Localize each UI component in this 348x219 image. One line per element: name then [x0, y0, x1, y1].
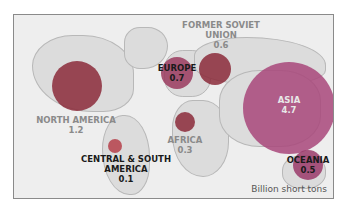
label-asia-value: 4.7 [269, 105, 309, 115]
label-fsu-name-line2: UNION [176, 30, 266, 40]
label-asia-name: ASIA [269, 95, 309, 105]
label-africa-name: AFRICA [165, 135, 205, 145]
label-europe: EUROPE 0.7 [157, 63, 197, 83]
bubble-former-soviet-union [199, 53, 231, 85]
label-asia: ASIA 4.7 [269, 95, 309, 115]
label-oceania: OCEANIA 0.5 [286, 155, 330, 175]
bubble-africa [175, 112, 195, 132]
label-africa: AFRICA 0.3 [165, 135, 205, 155]
bubble-north-america [52, 61, 102, 111]
label-former-soviet-union: FORMER SOVIET UNION 0.6 [176, 20, 266, 50]
bubble-central-south-america [108, 139, 122, 153]
label-csa-name-line2: AMERICA [76, 164, 176, 174]
unit-label: Billion short tons [251, 184, 327, 194]
map-frame: NORTH AMERICA 1.2 CENTRAL & SOUTH AMERIC… [13, 14, 334, 199]
label-europe-value: 0.7 [157, 73, 197, 83]
label-north-america-name: NORTH AMERICA [36, 115, 116, 125]
label-fsu-name-line1: FORMER SOVIET [176, 20, 266, 30]
label-central-south-america: CENTRAL & SOUTH AMERICA 0.1 [76, 154, 176, 184]
label-north-america: NORTH AMERICA 1.2 [36, 115, 116, 135]
label-oceania-name: OCEANIA [286, 155, 330, 165]
label-csa-name-line1: CENTRAL & SOUTH [76, 154, 176, 164]
label-csa-value: 0.1 [76, 174, 176, 184]
label-fsu-value: 0.6 [176, 40, 266, 50]
label-africa-value: 0.3 [165, 145, 205, 155]
label-north-america-value: 1.2 [36, 125, 116, 135]
label-oceania-value: 0.5 [286, 165, 330, 175]
label-europe-name: EUROPE [157, 63, 197, 73]
